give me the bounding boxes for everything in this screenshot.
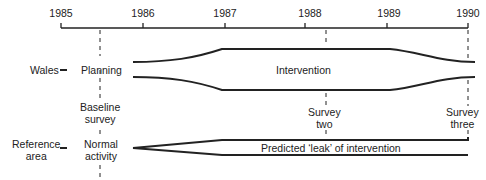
intervention-label: Intervention <box>276 64 331 76</box>
survey-three-label: Survey three <box>446 106 479 130</box>
year-1987: 1987 <box>213 7 236 19</box>
year-1990: 1990 <box>456 7 479 19</box>
year-1986: 1986 <box>131 7 154 19</box>
survey-two-label: Survey two <box>308 106 341 130</box>
reference-area-label: Reference area <box>12 138 60 162</box>
time-axis <box>61 23 468 28</box>
year-1989: 1989 <box>377 7 400 19</box>
normal-activity-label: Normal activity <box>84 138 118 162</box>
predicted-leak-label: Predicted ‘leak’ of intervention <box>261 142 401 154</box>
year-1985: 1985 <box>49 7 72 19</box>
planning-label: Planning <box>81 64 122 76</box>
wales-label: Wales <box>30 64 59 76</box>
baseline-survey-label: Baseline survey <box>80 101 120 125</box>
year-1988: 1988 <box>298 7 321 19</box>
timeline-diagram <box>0 0 486 180</box>
